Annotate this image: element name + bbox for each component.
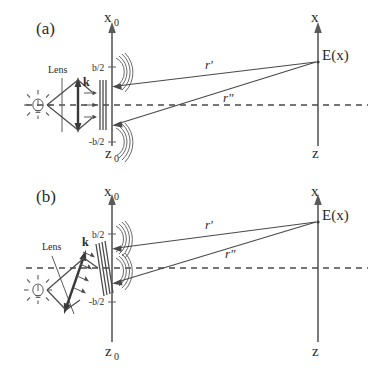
panel-b-observation-axis: x z: [311, 183, 322, 359]
panel-a-wavevector-label: k: [83, 75, 90, 89]
panel-b-ray-upper: r': [112, 217, 316, 252]
panel-a-field-point: [316, 60, 319, 63]
panel-a-obs-plane-label: z: [312, 145, 319, 161]
panel-b: (b) x 0 z 0 x z: [24, 183, 368, 362]
panel-a-source-axis-sub: 0: [114, 17, 119, 28]
panel-b-ray-lower-label: r": [225, 246, 236, 261]
panel-a-ray-upper-label: r': [205, 57, 213, 72]
panel-b-field-label: E(x): [322, 207, 349, 224]
panel-b-source-plane-sub: 0: [114, 351, 119, 362]
panel-a-label: (a): [36, 19, 55, 38]
panel-a-aperture-top-label: b/2: [92, 63, 104, 73]
panel-a-wavevector-arrows: k: [83, 75, 97, 119]
panel-a-obs-axis-label: x: [311, 9, 319, 25]
panel-b-source-axis-sub: 0: [114, 191, 119, 202]
panel-b-wavefront-upper: [116, 221, 132, 258]
panel-b-source-axis-label: x: [104, 183, 112, 199]
panel-a-source-axis-label: x: [104, 9, 112, 25]
panel-b-ray-upper-label: r': [205, 217, 213, 232]
panel-a-lens-label: Lens: [48, 64, 68, 75]
panel-a-field-label: E(x): [322, 47, 349, 64]
panel-a-ray-lower-label: r": [223, 90, 234, 105]
panel-b-obs-axis-label: x: [311, 183, 319, 199]
panel-a: (a) x 0 z 0 x z: [24, 9, 368, 164]
panel-a-ray-lower: r": [112, 62, 316, 128]
panel-a-ray-upper: r': [112, 57, 316, 90]
panel-b-wavevector-label: k: [82, 235, 89, 249]
panel-b-obs-plane-label: z: [312, 343, 319, 359]
panel-b-label: (b): [36, 187, 56, 206]
panel-a-aperture-bottom-label: -b/2: [89, 137, 105, 147]
panel-b-lens-label: Lens: [42, 241, 62, 252]
panel-b-aperture-top-label: b/2: [92, 230, 104, 240]
panel-a-observation-axis: x z: [311, 9, 322, 161]
optics-diagram-figure: (a) x 0 z 0 x z: [0, 0, 376, 371]
panel-b-ray-lower: r": [112, 222, 316, 286]
panel-b-field-point: [316, 220, 319, 223]
panel-b-source-plane-label: z: [105, 343, 112, 359]
panel-b-aperture-bottom-label: -b/2: [89, 297, 105, 307]
panel-a-source-plane-label: z: [105, 145, 112, 161]
